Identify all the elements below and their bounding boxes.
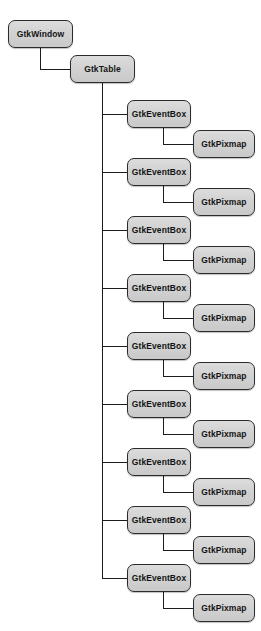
node-label-pixmap-1: GtkPixmap [201, 140, 246, 149]
connector-edge-eventbox-4-pixmap-4-seg-0 [163, 302, 164, 318]
node-label-eventbox-4: GtkEventBox [132, 284, 186, 293]
connector-edge-eventbox-5-pixmap-5-seg-0 [163, 360, 164, 376]
node-eventbox-6: GtkEventBox [127, 390, 191, 418]
node-pixmap-3: GtkPixmap [193, 246, 255, 274]
node-label-window: GtkWindow [17, 30, 65, 39]
connector-edge-eventbox-8-pixmap-8-seg-1 [163, 550, 193, 551]
node-label-pixmap-7: GtkPixmap [201, 488, 246, 497]
connector-edge-trunk-eventbox-9-seg-0 [102, 578, 127, 579]
node-label-table: GtkTable [84, 65, 121, 74]
connector-edge-eventbox-6-pixmap-6-seg-1 [163, 434, 193, 435]
widget-hierarchy-diagram: GtkWindowGtkTableGtkEventBoxGtkPixmapGtk… [0, 0, 261, 631]
connector-edge-eventbox-5-pixmap-5-seg-1 [163, 376, 193, 377]
node-label-pixmap-3: GtkPixmap [201, 256, 246, 265]
connector-edge-window-table-seg-0 [40, 48, 41, 70]
connector-edge-trunk-eventbox-4-seg-0 [102, 288, 127, 289]
node-label-pixmap-4: GtkPixmap [201, 314, 246, 323]
connector-edge-eventbox-3-pixmap-3-seg-1 [163, 260, 193, 261]
node-eventbox-4: GtkEventBox [127, 274, 191, 302]
node-label-eventbox-3: GtkEventBox [132, 226, 186, 235]
node-eventbox-8: GtkEventBox [127, 506, 191, 534]
connector-edge-eventbox-9-pixmap-9-seg-0 [163, 592, 164, 608]
connector-edge-eventbox-8-pixmap-8-seg-0 [163, 534, 164, 550]
node-eventbox-2: GtkEventBox [127, 158, 191, 186]
connector-edge-eventbox-4-pixmap-4-seg-1 [163, 318, 193, 319]
connector-edge-trunk-eventbox-7-seg-0 [102, 462, 127, 463]
node-label-eventbox-2: GtkEventBox [132, 168, 186, 177]
node-label-pixmap-9: GtkPixmap [201, 604, 246, 613]
connector-edge-trunk-eventbox-6-seg-0 [102, 404, 127, 405]
connector-edge-eventbox-1-pixmap-1-seg-1 [163, 144, 193, 145]
node-pixmap-7: GtkPixmap [193, 478, 255, 506]
node-label-eventbox-8: GtkEventBox [132, 516, 186, 525]
connector-edge-eventbox-3-pixmap-3-seg-0 [163, 244, 164, 260]
connector-edge-eventbox-9-pixmap-9-seg-1 [163, 608, 193, 609]
node-label-eventbox-9: GtkEventBox [132, 574, 186, 583]
node-label-pixmap-2: GtkPixmap [201, 198, 246, 207]
connector-edge-trunk-eventbox-8-seg-0 [102, 520, 127, 521]
connector-edge-eventbox-6-pixmap-6-seg-0 [163, 418, 164, 434]
node-eventbox-9: GtkEventBox [127, 564, 191, 592]
connector-edge-eventbox-2-pixmap-2-seg-1 [163, 202, 193, 203]
node-pixmap-6: GtkPixmap [193, 420, 255, 448]
connector-edge-eventbox-7-pixmap-7-seg-1 [163, 492, 193, 493]
node-label-eventbox-1: GtkEventBox [132, 110, 186, 119]
node-label-eventbox-6: GtkEventBox [132, 400, 186, 409]
node-pixmap-9: GtkPixmap [193, 594, 255, 622]
connector-edge-table-trunk-seg-0 [102, 83, 103, 578]
node-pixmap-5: GtkPixmap [193, 362, 255, 390]
connector-edge-trunk-eventbox-5-seg-0 [102, 346, 127, 347]
node-eventbox-5: GtkEventBox [127, 332, 191, 360]
connector-edge-trunk-eventbox-3-seg-0 [102, 230, 127, 231]
node-pixmap-1: GtkPixmap [193, 130, 255, 158]
node-pixmap-8: GtkPixmap [193, 536, 255, 564]
node-eventbox-7: GtkEventBox [127, 448, 191, 476]
connector-edge-eventbox-2-pixmap-2-seg-0 [163, 186, 164, 202]
connector-edge-window-table-seg-1 [40, 69, 70, 70]
node-label-pixmap-6: GtkPixmap [201, 430, 246, 439]
node-eventbox-3: GtkEventBox [127, 216, 191, 244]
connector-edge-trunk-eventbox-2-seg-0 [102, 172, 127, 173]
connector-edge-eventbox-7-pixmap-7-seg-0 [163, 476, 164, 492]
node-label-pixmap-5: GtkPixmap [201, 372, 246, 381]
node-label-pixmap-8: GtkPixmap [201, 546, 246, 555]
connector-edge-eventbox-1-pixmap-1-seg-0 [163, 128, 164, 144]
node-label-eventbox-7: GtkEventBox [132, 458, 186, 467]
node-window: GtkWindow [8, 20, 73, 48]
node-label-eventbox-5: GtkEventBox [132, 342, 186, 351]
node-pixmap-2: GtkPixmap [193, 188, 255, 216]
node-table: GtkTable [70, 55, 135, 83]
connector-edge-trunk-eventbox-1-seg-0 [102, 114, 127, 115]
node-pixmap-4: GtkPixmap [193, 304, 255, 332]
node-eventbox-1: GtkEventBox [127, 100, 191, 128]
